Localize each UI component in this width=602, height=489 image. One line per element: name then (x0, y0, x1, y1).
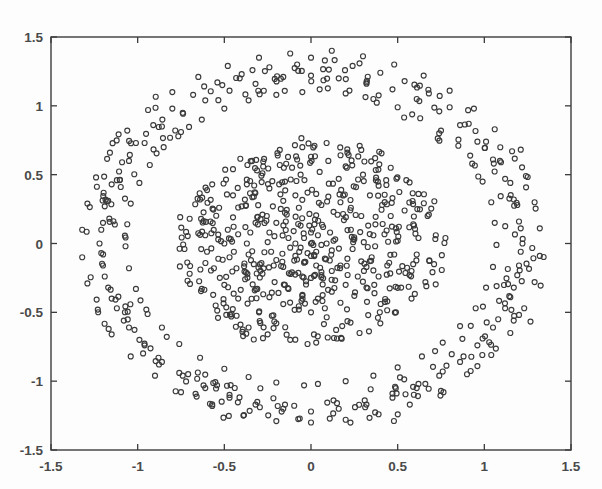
data-point-outer-ring (444, 363, 449, 368)
data-point-outer-ring (461, 354, 466, 359)
data-point-inner-disc (197, 191, 202, 196)
data-point-inner-disc (274, 220, 279, 225)
data-point-inner-disc (384, 182, 389, 187)
data-point-outer-ring (480, 304, 485, 309)
data-point-inner-disc (260, 336, 265, 341)
data-point-inner-disc (293, 337, 298, 342)
data-point-inner-disc (197, 279, 202, 284)
data-point-inner-disc (245, 163, 250, 168)
data-point-outer-ring (222, 106, 227, 111)
data-point-inner-disc (177, 264, 182, 269)
data-point-inner-disc (362, 159, 367, 164)
data-point-inner-disc (187, 271, 192, 276)
data-point-outer-ring (309, 73, 314, 78)
data-point-inner-disc (250, 282, 255, 287)
data-point-inner-disc (319, 242, 324, 247)
data-point-outer-ring (288, 51, 293, 56)
data-point-outer-ring (302, 383, 307, 388)
data-point-outer-ring (395, 105, 400, 110)
data-point-outer-ring (484, 320, 489, 325)
data-point-outer-ring (247, 408, 252, 413)
data-point-inner-disc (187, 216, 192, 221)
data-point-inner-disc (348, 198, 353, 203)
data-point-outer-ring (460, 336, 465, 341)
data-point-outer-ring (215, 80, 220, 85)
data-point-inner-disc (262, 250, 267, 255)
data-point-inner-disc (238, 287, 243, 292)
data-point-outer-ring (94, 184, 99, 189)
data-point-inner-disc (410, 191, 415, 196)
data-point-inner-disc (291, 229, 296, 234)
data-point-outer-ring (128, 201, 133, 206)
data-point-outer-ring (237, 395, 242, 400)
data-point-inner-disc (421, 192, 426, 197)
data-point-outer-ring (299, 68, 304, 73)
x-tick-label: 1 (481, 459, 489, 474)
data-point-outer-ring (426, 386, 431, 391)
data-point-inner-disc (302, 178, 307, 183)
data-point-outer-ring (402, 115, 407, 120)
data-point-inner-disc (338, 153, 343, 158)
data-point-outer-ring (503, 224, 508, 229)
data-point-inner-disc (231, 249, 236, 254)
data-point-outer-ring (84, 229, 89, 234)
data-point-outer-ring (491, 325, 496, 330)
data-point-inner-disc (356, 154, 361, 159)
data-point-outer-ring (331, 411, 336, 416)
data-point-outer-ring (101, 220, 106, 225)
data-point-outer-ring (123, 196, 128, 201)
data-point-inner-disc (325, 335, 330, 340)
data-point-inner-disc (345, 256, 350, 261)
data-point-outer-ring (350, 63, 355, 68)
data-point-inner-disc (270, 179, 275, 184)
data-point-inner-disc (341, 212, 346, 217)
data-point-inner-disc (432, 199, 437, 204)
data-point-outer-ring (371, 373, 376, 378)
data-point-outer-ring (317, 87, 322, 92)
data-point-outer-ring (243, 92, 248, 97)
data-point-inner-disc (288, 177, 293, 182)
data-point-outer-ring (503, 306, 508, 311)
data-point-outer-ring (433, 349, 438, 354)
data-point-inner-disc (343, 282, 348, 287)
data-point-inner-disc (397, 269, 402, 274)
data-point-outer-ring (137, 180, 142, 185)
data-point-inner-disc (339, 187, 344, 192)
data-point-inner-disc (340, 324, 345, 329)
data-point-inner-disc (223, 167, 228, 172)
data-point-inner-disc (360, 279, 365, 284)
data-point-outer-ring (537, 226, 542, 231)
data-point-inner-disc (283, 325, 288, 330)
x-tick-label: -1.5 (39, 459, 63, 474)
data-point-outer-ring (125, 128, 130, 133)
data-point-inner-disc (382, 192, 387, 197)
data-point-outer-ring (85, 281, 90, 286)
data-point-outer-ring (449, 352, 454, 357)
data-point-inner-disc (231, 291, 236, 296)
data-point-inner-disc (324, 315, 329, 320)
data-point-outer-ring (497, 298, 502, 303)
data-point-inner-disc (252, 183, 257, 188)
data-point-inner-disc (309, 310, 314, 315)
data-point-outer-ring (102, 174, 107, 179)
data-point-outer-ring (292, 403, 297, 408)
data-point-outer-ring (94, 175, 99, 180)
data-point-outer-ring (106, 326, 111, 331)
data-point-outer-ring (378, 70, 383, 75)
data-point-inner-disc (430, 270, 435, 275)
data-point-outer-ring (237, 76, 242, 81)
data-point-inner-disc (293, 214, 298, 219)
data-point-outer-ring (253, 81, 258, 86)
data-point-outer-ring (226, 413, 231, 418)
data-point-inner-disc (307, 211, 312, 216)
data-point-outer-ring (518, 147, 523, 152)
data-point-inner-disc (321, 322, 326, 327)
data-point-inner-disc (406, 284, 411, 289)
data-point-inner-disc (317, 169, 322, 174)
data-point-outer-ring (432, 105, 437, 110)
data-point-outer-ring (153, 94, 158, 99)
data-point-inner-disc (357, 330, 362, 335)
data-point-inner-disc (385, 308, 390, 313)
data-point-inner-disc (278, 192, 283, 197)
data-point-outer-ring (522, 306, 527, 311)
